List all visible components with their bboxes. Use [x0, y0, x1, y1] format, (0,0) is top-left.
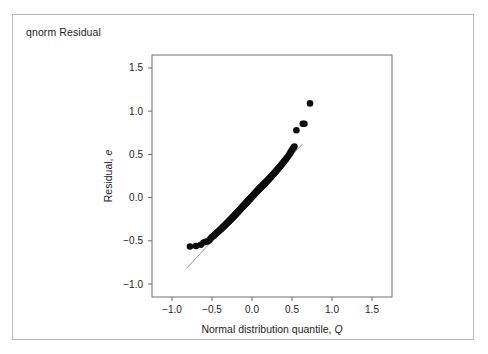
y-tick-label: 1.5: [129, 62, 143, 73]
x-tick-label: 1.5: [365, 304, 379, 315]
y-tick-label: 0.0: [129, 192, 143, 203]
data-point: [293, 127, 300, 134]
data-point: [291, 143, 298, 150]
y-tick-label: −1.0: [123, 279, 143, 290]
x-tick-label: 1.0: [325, 304, 339, 315]
data-point: [307, 100, 314, 107]
data-point: [301, 120, 308, 127]
y-tick-label: −0.5: [123, 235, 143, 246]
figure-container: qnorm Residual −1.0−0.50.00.51.01.5−1.0−…: [0, 0, 488, 354]
axis-labels: −1.0−0.50.00.51.01.5−1.0−0.50.00.51.01.5…: [102, 62, 379, 335]
x-axis-title: Normal distribution quantile, Q: [201, 323, 342, 335]
data-point: [187, 243, 194, 250]
x-tick-label: 0.5: [285, 304, 299, 315]
y-axis-title: Residual, e: [102, 150, 114, 203]
y-tick-label: 0.5: [129, 149, 143, 160]
data-points: [187, 100, 314, 250]
x-tick-label: 0.0: [245, 304, 259, 315]
x-tick-label: −0.5: [202, 304, 222, 315]
x-tick-label: −1.0: [162, 304, 182, 315]
y-tick-label: 1.0: [129, 106, 143, 117]
qq-plot: −1.0−0.50.00.51.01.5−1.0−0.50.00.51.01.5…: [0, 0, 488, 354]
